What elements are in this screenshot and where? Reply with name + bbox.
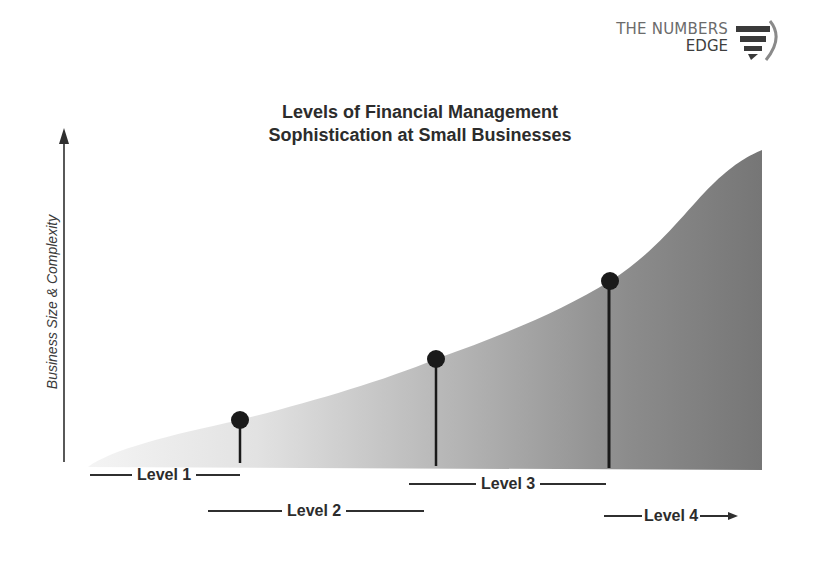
range-line — [409, 483, 476, 485]
level-4-range: Level 4 — [604, 507, 738, 525]
range-line — [604, 515, 642, 517]
marker-dot-icon — [231, 411, 249, 429]
range-line — [90, 474, 132, 476]
marker-dot-icon — [427, 350, 445, 368]
range-line — [346, 510, 424, 512]
range-line — [540, 483, 606, 485]
marker-dot-icon — [601, 272, 619, 290]
diagram-canvas: THE NUMBERS EDGE Levels of Financial Man… — [0, 0, 814, 568]
up-arrow-icon — [59, 128, 69, 144]
range-line — [208, 510, 282, 512]
y-axis — [59, 128, 69, 462]
growth-area — [88, 150, 762, 470]
range-line — [700, 515, 728, 517]
level-3-range: Level 3 — [409, 475, 606, 493]
level-1-label: Level 1 — [137, 466, 191, 484]
level-2-range: Level 2 — [208, 502, 424, 520]
level-1-range: Level 1 — [90, 466, 240, 484]
level-2-label: Level 2 — [287, 502, 341, 520]
level-4-label: Level 4 — [644, 507, 698, 525]
range-line — [196, 474, 240, 476]
level-3-label: Level 3 — [481, 475, 535, 493]
y-axis-label: Business Size & Complexity — [44, 215, 60, 389]
right-arrow-icon — [728, 512, 738, 520]
